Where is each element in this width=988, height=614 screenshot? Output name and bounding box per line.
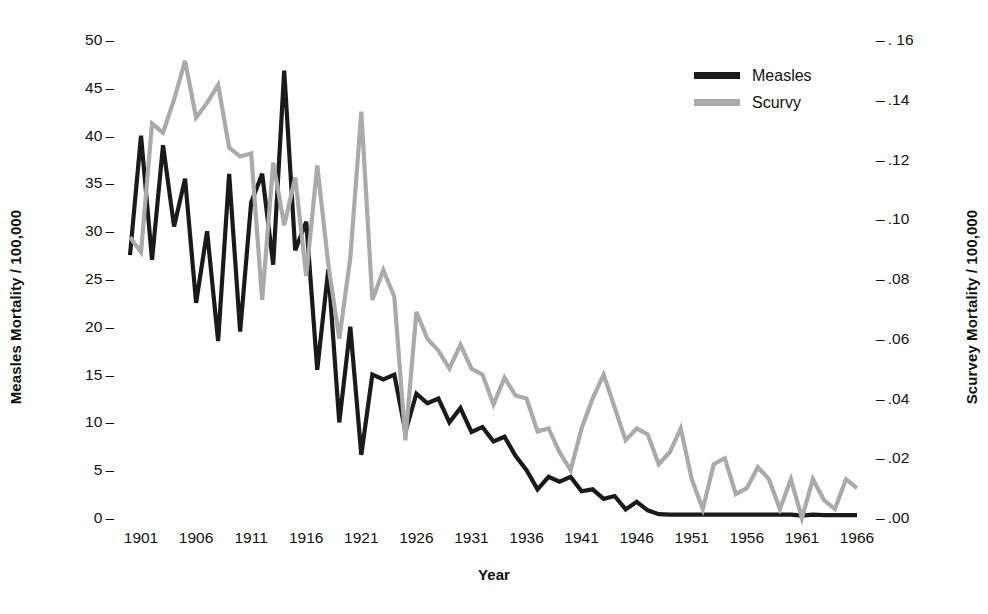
y-tick-left-label: 35 – xyxy=(85,174,114,192)
y-axis-left-title: Measles Mortality / 100,000 xyxy=(2,0,30,614)
data-line-measles xyxy=(130,71,857,516)
y-tick-left-label: 25 – xyxy=(85,270,114,288)
x-tick-label: 1911 xyxy=(234,529,267,547)
legend-label-scurvy: Scurvy xyxy=(752,94,801,112)
legend-label-measles: Measles xyxy=(752,67,812,85)
y-tick-left-label: 5 – xyxy=(94,461,114,479)
y-tick-left-label: 40 – xyxy=(85,127,114,145)
y-tick-right-label: – .10 xyxy=(876,210,909,228)
x-tick-label: 1951 xyxy=(675,529,709,547)
y-tick-left-label: 30 – xyxy=(85,222,114,240)
x-tick-label: 1906 xyxy=(179,529,213,547)
x-tick-label: 1941 xyxy=(564,529,598,547)
y-axis-right-title: Scurvey Mortality / 100,000 xyxy=(958,0,986,614)
y-tick-right-label: – .08 xyxy=(876,270,909,288)
y-tick-left-label: 50 – xyxy=(85,31,114,49)
x-tick-label: 1961 xyxy=(785,529,819,547)
legend-swatch-scurvy xyxy=(694,99,740,106)
data-line-scurvy xyxy=(130,61,857,518)
y-tick-left-label: 20 – xyxy=(85,318,114,336)
legend-item-measles: Measles xyxy=(694,62,874,89)
x-tick-label: 1901 xyxy=(124,529,158,547)
chart-legend: Measles Scurvy xyxy=(694,62,874,116)
y-tick-right-label: – .14 xyxy=(876,91,909,109)
x-axis-title: Year xyxy=(0,566,988,583)
x-tick-label: 1966 xyxy=(840,529,874,547)
y-tick-right-label: – .04 xyxy=(876,390,909,408)
x-tick-label: 1926 xyxy=(399,529,433,547)
y-tick-left-label: 45 – xyxy=(85,79,114,97)
y-tick-left-label: 10 – xyxy=(85,413,114,431)
y-tick-left-label: 0 – xyxy=(94,509,114,527)
x-tick-label: 1946 xyxy=(619,529,653,547)
legend-item-scurvy: Scurvy xyxy=(694,89,874,116)
x-tick-label: 1916 xyxy=(289,529,323,547)
y-tick-right-label: – .02 xyxy=(876,449,909,467)
x-tick-label: 1956 xyxy=(730,529,764,547)
x-tick-label: 1931 xyxy=(454,529,488,547)
y-tick-right-label: – . 16 xyxy=(876,31,914,49)
chart-figure: Measles Mortality / 100,000 Scurvey Mort… xyxy=(0,0,988,614)
x-tick-label: 1921 xyxy=(344,529,378,547)
y-tick-right-label: – .12 xyxy=(876,151,909,169)
legend-swatch-measles xyxy=(694,72,740,79)
y-tick-left-label: 15 – xyxy=(85,366,114,384)
y-tick-right-label: – .06 xyxy=(876,330,909,348)
y-tick-right-label: – .00 xyxy=(876,509,909,527)
x-tick-label: 1936 xyxy=(509,529,543,547)
